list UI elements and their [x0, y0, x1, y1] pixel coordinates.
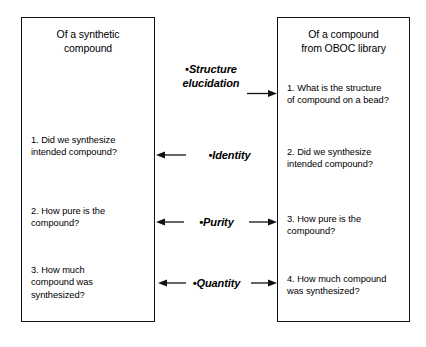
center-label-structure-elucidation: •Structure elucidation — [170, 62, 252, 90]
arrow-left-icon-quantity — [158, 279, 186, 288]
right-panel-item-1-line-2: of compound on a bead? — [287, 94, 404, 106]
left-panel-item-1-line-1: 1. Did we synthesize — [31, 134, 149, 146]
center-label-quantity: •Quantity — [193, 276, 241, 290]
right-panel-item-4-line-2: was synthesized? — [287, 285, 404, 297]
right-panel-title: Of a compound from OBOC library — [278, 28, 409, 55]
quantity-line-1: •Quantity — [193, 276, 241, 290]
left-panel-item-1: 1. Did we synthesize intended compound? — [31, 134, 149, 159]
right-panel-item-3: 3. How pure is the compound? — [287, 213, 404, 238]
right-panel-title-line-1: Of a compound — [278, 28, 409, 42]
identity-text: Identity — [212, 149, 250, 161]
left-panel-item-3-line-1: 3. How much — [31, 264, 149, 276]
right-panel-item-1-line-1: 1. What is the structure — [287, 82, 404, 94]
center-label-identity: •Identity — [208, 148, 250, 162]
center-row-purity: •Purity — [156, 205, 277, 239]
right-panel-item-3-line-1: 3. How pure is the — [287, 213, 404, 225]
diagram-canvas: Of a synthetic compound 1. Did we synthe… — [0, 0, 426, 347]
identity-line-1: •Identity — [208, 148, 250, 162]
structure-elucidation-line-2: elucidation — [170, 76, 252, 90]
left-panel-item-2-line-1: 2. How pure is the — [31, 205, 149, 217]
left-panel-title-line-2: compound — [22, 42, 154, 56]
arrow-right-icon-quantity — [251, 279, 277, 288]
right-panel-item-1: 1. What is the structure of compound on … — [287, 82, 404, 107]
right-panel-title-line-2: from OBOC library — [278, 42, 409, 56]
left-panel-item-2-line-2: compound? — [31, 217, 149, 229]
left-panel-item-3-line-2: compound was — [31, 276, 149, 288]
left-panel-title: Of a synthetic compound — [22, 28, 154, 55]
quantity-text: Quantity — [196, 277, 240, 289]
center-row-identity: •Identity — [156, 138, 277, 172]
center-row-structure-elucidation: •Structure elucidation — [156, 62, 277, 106]
left-panel-title-line-1: Of a synthetic — [22, 28, 154, 42]
right-panel-item-2-line-2: intended compound? — [287, 158, 404, 170]
structure-elucidation-line-1: •Structure — [170, 62, 252, 76]
arrow-left-icon-identity — [156, 151, 186, 160]
left-panel-item-1-line-2: intended compound? — [31, 146, 149, 158]
purity-line-1: •Purity — [199, 215, 233, 229]
purity-text: Purity — [203, 216, 234, 228]
arrow-right-icon-purity — [249, 218, 277, 227]
arrow-right-icon-structure-elucidation — [247, 89, 277, 98]
center-label-purity: •Purity — [199, 215, 233, 229]
right-panel-item-4-line-1: 4. How much compound — [287, 273, 404, 285]
left-panel-item-2: 2. How pure is the compound? — [31, 205, 149, 230]
left-panel-item-3-line-3: synthesized? — [31, 289, 149, 301]
left-panel: Of a synthetic compound 1. Did we synthe… — [21, 17, 155, 322]
left-panel-item-3: 3. How much compound was synthesized? — [31, 264, 149, 301]
right-panel-item-3-line-2: compound? — [287, 225, 404, 237]
right-panel-item-4: 4. How much compound was synthesized? — [287, 273, 404, 298]
arrow-left-icon-purity — [156, 218, 184, 227]
center-row-quantity: •Quantity — [156, 266, 277, 300]
right-panel-item-2-line-1: 2. Did we synthesize — [287, 146, 404, 158]
structure-elucidation-text-1: Structure — [189, 63, 237, 75]
right-panel: Of a compound from OBOC library 1. What … — [277, 17, 410, 322]
right-panel-item-2: 2. Did we synthesize intended compound? — [287, 146, 404, 171]
